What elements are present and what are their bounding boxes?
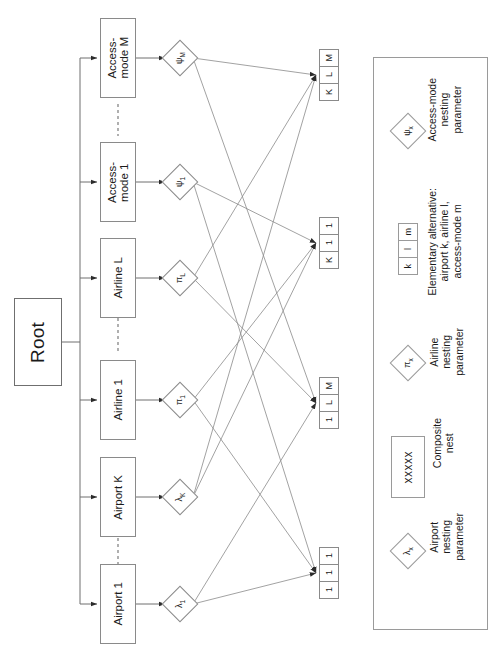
legend-text-composite-nest: Composite nest — [431, 418, 467, 518]
nest-box-airport-k[interactable]: Airport K — [100, 457, 136, 537]
alt-cell-airline: L — [319, 395, 339, 412]
legend-text-access-mode-nesting: Access-mode nesting parameter — [426, 78, 476, 200]
alt-cell-airline: 1 — [319, 235, 339, 252]
legend-glyph-composite-box: xxxxx — [391, 436, 425, 498]
alt-cell-airline: 1 — [319, 565, 339, 582]
legend-symbol-pi: πx — [402, 358, 414, 367]
nesting-parameter-label: π1 — [174, 395, 186, 405]
alt-cell-airport: M — [319, 377, 339, 395]
nest-label: Airline 1 — [112, 379, 124, 421]
legend-text-elementary-alternative: Elementary alternative: airport k, airli… — [426, 188, 476, 310]
alt-cell-access-mode: K — [319, 84, 339, 101]
legend-symbol-psi: ψx — [402, 126, 414, 136]
root-label: Root — [28, 322, 48, 363]
alt-cell-airport: 1 — [319, 547, 339, 565]
nesting-parameter-label: πL — [174, 273, 186, 283]
elementary-alternative-111[interactable]: 1 1 1 — [319, 547, 339, 599]
alt-cell-airport: 1 — [319, 217, 339, 235]
nesting-parameter-label: λK — [174, 493, 186, 502]
legend-text-airline-nesting: Airline nesting parameter — [428, 328, 474, 410]
nest-box-airline-1[interactable]: Airline 1 — [100, 360, 136, 440]
diagram-canvas: Root Access- mode M Access- mode 1 Airli… — [0, 0, 499, 667]
legend-text-airport-nesting: Airport nesting parameter — [428, 513, 474, 597]
legend-panel: λx Airport nesting parameter xxxxx Compo… — [373, 57, 488, 630]
legend-glyph-alt-box: m l k — [398, 223, 418, 275]
legend-glyph-psi-diamond: ψx — [390, 113, 427, 150]
elementary-alternative-k11[interactable]: 1 1 K — [319, 217, 339, 269]
nest-box-airline-l[interactable]: Airline L — [100, 238, 136, 318]
alt-cell-airline: L — [319, 67, 339, 84]
elementary-alternative-1lm[interactable]: M L 1 — [319, 377, 339, 429]
nest-label: Airport 1 — [112, 582, 124, 625]
nest-label: Airport K — [112, 475, 124, 520]
nesting-parameter-label: ψ1 — [174, 177, 186, 187]
root-node[interactable]: Root — [14, 298, 62, 386]
legend-glyph-lambda-diamond: λx — [390, 533, 427, 570]
legend-alt-cell-k: k — [398, 258, 418, 275]
legend-glyph-pi-diamond: πx — [390, 345, 427, 382]
nest-label: Airline L — [112, 257, 124, 299]
nest-box-airport-1[interactable]: Airport 1 — [100, 564, 136, 644]
alt-cell-access-mode: K — [319, 252, 339, 269]
alt-cell-access-mode: 1 — [319, 582, 339, 599]
legend-symbol-lambda: λx — [402, 547, 414, 555]
legend-symbol-composite: xxxxx — [401, 451, 415, 484]
alt-cell-access-mode: 1 — [319, 412, 339, 429]
nest-box-access-mode-m[interactable]: Access- mode M — [100, 18, 136, 98]
legend-alt-cell-l: l — [398, 241, 418, 258]
nest-label: Access- mode 1 — [106, 162, 130, 203]
nest-label: Access- mode M — [106, 37, 130, 79]
nesting-parameter-label: λ1 — [174, 600, 186, 608]
nest-box-access-mode-1[interactable]: Access- mode 1 — [100, 142, 136, 222]
alt-cell-airport: M — [319, 49, 339, 67]
elementary-alternative-klm[interactable]: M L K — [319, 49, 339, 101]
legend-alt-cell-m: m — [398, 223, 418, 241]
nesting-parameter-label: ψM — [174, 52, 186, 64]
